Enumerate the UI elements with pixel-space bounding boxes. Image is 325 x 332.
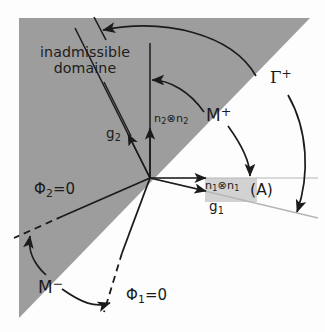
label-n1-tensor-n1: n1⊗n1 [205,180,239,193]
label-m-minus-superscript: − [53,276,64,291]
label-gamma-plus-base: Γ [270,68,282,87]
label-phi2-equals: =0 [53,180,75,198]
label-m-plus-superscript: + [221,104,232,119]
label-gamma-plus: Γ+ [270,68,292,88]
label-g1: g1 [209,199,224,217]
label-phi2-subscript: 2 [46,187,53,200]
label-m-minus: M− [38,277,63,297]
label-phi2-base: Φ [34,180,46,198]
label-g2: g2 [106,126,121,144]
label-m-plus-base: M [206,105,221,125]
label-n2n2-sub2: 2 [183,117,188,126]
label-n1n1-sub2: 1 [234,184,239,193]
label-phi1-subscript: 1 [138,293,145,306]
label-inadmissible-line1: inadmissible [40,44,130,60]
tensor-product-icon: ⊗ [217,179,226,192]
label-g1-subscript: 1 [218,205,224,216]
label-m-minus-base: M [38,277,53,297]
label-n2-tensor-n2: n2⊗n2 [154,113,188,126]
label-phi1-equals: =0 [145,286,167,304]
label-region-a: (A) [250,182,273,199]
tensor-product-icon: ⊗ [166,112,175,125]
label-inadmissible-domain: inadmissible domaine [29,45,141,77]
label-g2-base: g [106,125,115,141]
label-m-plus: M+ [206,105,231,125]
figure-canvas: inadmissible domaine g2 n2⊗n2 M+ Γ+ Φ2=0… [0,0,325,332]
label-phi1-zero: Φ1=0 [126,287,167,306]
label-gamma-plus-superscript: + [282,67,292,81]
label-phi1-base: Φ [126,286,138,304]
label-phi2-zero: Φ2=0 [34,181,75,200]
label-inadmissible-line2: domaine [54,60,117,76]
label-g2-subscript: 2 [115,132,121,143]
label-g1-base: g [209,198,218,214]
